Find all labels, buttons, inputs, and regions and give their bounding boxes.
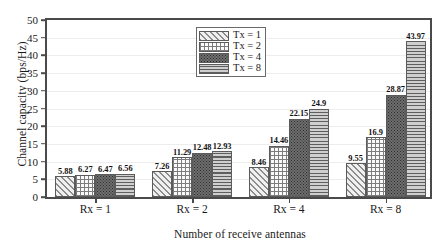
bar-value-label: 9.55 (348, 155, 363, 163)
bar: 5.88 (55, 176, 75, 197)
y-axis-tick-mark (41, 125, 45, 127)
y-axis-tick-mark (41, 161, 45, 163)
y-axis-tick-mark (41, 108, 45, 110)
bar: 22.15 (289, 119, 309, 197)
bar-value-label: 28.87 (386, 86, 405, 94)
x-axis-tick-mark (192, 199, 194, 203)
bar-value-label: 6.56 (118, 165, 133, 173)
bar-slot: 16.9 (366, 20, 386, 197)
y-axis-tick-label: 0 (33, 192, 39, 203)
bar: 6.27 (75, 175, 95, 197)
bar-slot: 28.87 (386, 20, 406, 197)
bar: 16.9 (366, 137, 386, 197)
bar-value-label: 6.47 (98, 166, 113, 174)
bar-slot: 5.88 (55, 20, 75, 197)
y-axis-tick-mark (41, 72, 45, 74)
x-axis-tick-mark (95, 199, 97, 203)
bar-value-label: 43.97 (406, 33, 425, 41)
y-axis-tick-label: 25 (27, 103, 38, 114)
legend-item: Tx = 8 (199, 63, 261, 74)
bar-value-label: 24.9 (312, 100, 327, 108)
bar-slot: 22.15 (289, 20, 309, 197)
y-axis-tick-label: 15 (27, 138, 38, 149)
chart-figure: Channel capacity (bps/Hz) 5.886.276.476.… (0, 0, 440, 251)
y-axis-tick-label: 50 (27, 15, 38, 26)
x-axis-tick-mark (386, 199, 388, 203)
y-axis-tick-mark (41, 37, 45, 39)
y-axis-tick-mark (41, 196, 45, 198)
bar-slot: 6.47 (95, 20, 115, 197)
bar: 43.97 (406, 41, 426, 197)
y-axis-tick-label: 40 (27, 50, 38, 61)
y-axis-tick-label: 35 (27, 68, 38, 79)
bar-slot: 14.46 (269, 20, 289, 197)
bar: 28.87 (386, 95, 406, 197)
bar: 6.47 (95, 174, 115, 197)
bar-slot: 24.9 (309, 20, 329, 197)
bar: 7.26 (152, 171, 172, 197)
bar-value-label: 7.26 (155, 163, 170, 171)
y-axis-tick-label: 30 (27, 85, 38, 96)
legend-label: Tx = 8 (233, 63, 261, 74)
x-axis-tick-label: Rx = 1 (80, 203, 111, 215)
legend-label: Tx = 4 (233, 52, 261, 63)
legend-swatch (199, 31, 229, 41)
bar-slot: 6.27 (75, 20, 95, 197)
bar-group: 5.886.276.476.56 (47, 20, 144, 197)
bar-slot: 6.56 (115, 20, 135, 197)
bar-value-label: 5.88 (58, 168, 73, 176)
y-axis-tick-mark (41, 19, 45, 21)
x-axis-tick-label: Rx = 4 (273, 203, 304, 215)
bar-value-label: 22.15 (289, 110, 308, 118)
legend-swatch (199, 64, 229, 74)
y-axis-tick-mark (41, 90, 45, 92)
legend-label: Tx = 1 (233, 30, 261, 41)
bar-slot: 11.29 (172, 20, 192, 197)
bar-value-label: 12.93 (213, 143, 232, 151)
legend-label: Tx = 2 (233, 41, 261, 52)
bar-value-label: 14.46 (269, 137, 288, 145)
legend-swatch (199, 53, 229, 63)
bar: 14.46 (269, 146, 289, 197)
bar-value-label: 12.48 (193, 144, 212, 152)
x-axis-tick-label: Rx = 8 (370, 203, 401, 215)
bar-slot: 43.97 (406, 20, 426, 197)
bar-value-label: 6.27 (78, 166, 93, 174)
y-axis-tick-mark (41, 143, 45, 145)
y-axis-tick-mark (41, 55, 45, 57)
bar: 12.93 (212, 151, 232, 197)
x-axis-title: Number of receive antennas (44, 228, 436, 240)
bar-group: 9.5516.928.8743.97 (337, 20, 434, 197)
bar-slot: 7.26 (152, 20, 172, 197)
y-axis-tick-label: 45 (27, 32, 38, 43)
x-axis-tick-label: Rx = 2 (176, 203, 207, 215)
x-axis-tick-mark (289, 199, 291, 203)
bar-value-label: 16.9 (368, 129, 383, 137)
y-axis-tick-label: 5 (33, 174, 39, 185)
bar: 24.9 (309, 109, 329, 197)
bar: 12.48 (192, 153, 212, 197)
bar-value-label: 8.46 (252, 159, 267, 167)
legend: Tx = 1Tx = 2Tx = 4Tx = 8 (196, 27, 266, 77)
y-axis-tick-mark (41, 179, 45, 181)
bar: 11.29 (172, 157, 192, 197)
bar: 9.55 (346, 163, 366, 197)
bar-slot: 9.55 (346, 20, 366, 197)
bar: 8.46 (249, 167, 269, 197)
bar: 6.56 (115, 174, 135, 197)
legend-swatch (199, 42, 229, 52)
y-axis-tick-label: 20 (27, 121, 38, 132)
y-axis-tick-label: 10 (27, 156, 38, 167)
bar-value-label: 11.29 (173, 149, 191, 157)
